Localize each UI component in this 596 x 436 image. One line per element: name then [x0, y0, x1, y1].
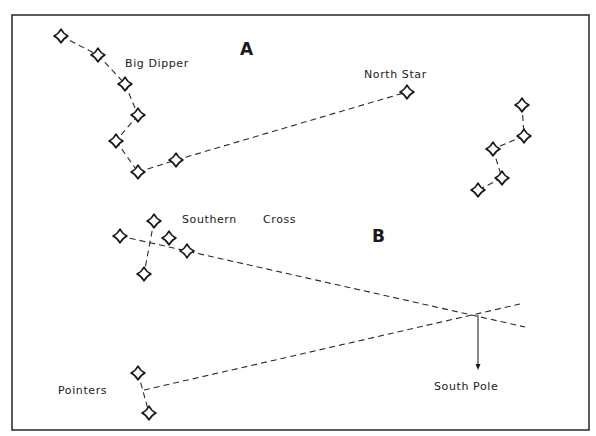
southern-cross-star-icon [147, 214, 161, 228]
southern-cross-star-icon [180, 244, 194, 258]
pointers-line [144, 304, 520, 390]
cassiopeia-star-icon [495, 171, 509, 185]
big-dipper-line [116, 115, 138, 141]
pointers-star-icon [131, 366, 145, 380]
big-dipper-line [138, 160, 176, 172]
label-big-dipper: Big Dipper [125, 57, 189, 70]
cassiopeia-star-icon [471, 183, 485, 197]
big-dipper-star-icon [169, 153, 183, 167]
south-pole-arrow [476, 315, 481, 370]
panel-label-b: B [372, 226, 385, 246]
pointers-star-icon [142, 406, 156, 420]
southern-cross-line [144, 221, 154, 274]
label-pointers: Pointers [58, 384, 107, 397]
big-dipper-line [116, 141, 138, 172]
label-southern: Southern [182, 213, 237, 226]
cassiopeia-star-icon [517, 129, 531, 143]
arrowhead-icon [476, 364, 481, 370]
big-dipper-star-icon [54, 29, 68, 43]
big-dipper-star-icon [109, 134, 123, 148]
north-star-line [176, 92, 407, 160]
cassiopeia-star-icon [486, 142, 500, 156]
big-dipper-star-icon [131, 108, 145, 122]
label-north-star: North Star [364, 68, 427, 81]
big-dipper-star-icon [91, 48, 105, 62]
north-star-star-icon [400, 85, 414, 99]
big-dipper-star-icon [131, 165, 145, 179]
label-cross: Cross [263, 213, 296, 226]
panel-label-a: A [240, 39, 254, 59]
diagram-frame [12, 15, 589, 430]
big-dipper-line [98, 55, 125, 84]
southern-cross-line [120, 236, 525, 327]
pointers-line [138, 373, 149, 413]
southern-cross-star-icon [137, 267, 151, 281]
star-diagram: A B Big Dipper North Star Southern Cross… [0, 0, 596, 436]
label-south-pole: South Pole [434, 380, 498, 393]
southern-cross-star-icon [162, 231, 176, 245]
cassiopeia-star-icon [515, 98, 529, 112]
southern-cross-star-icon [113, 229, 127, 243]
big-dipper-line [61, 36, 98, 55]
